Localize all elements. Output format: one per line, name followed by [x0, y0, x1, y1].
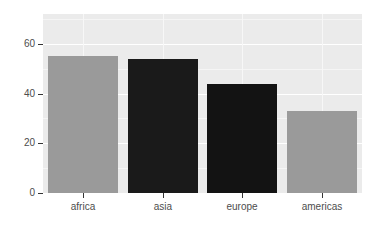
- y-tick-60: 60: [24, 37, 43, 51]
- x-tick-label: europe: [202, 201, 282, 212]
- y-tick-label: 60: [24, 37, 35, 51]
- bar-europe[interactable]: [207, 84, 277, 193]
- x-tick-mark: [83, 193, 84, 198]
- x-tick-africa: africa: [43, 193, 123, 212]
- plot-panel: [43, 14, 362, 193]
- gridline-minor-70: [43, 19, 362, 20]
- bar-americas[interactable]: [287, 111, 357, 193]
- y-tick-label: 40: [24, 87, 35, 101]
- gridline-major-60: [43, 44, 362, 45]
- y-tick-label: 0: [29, 186, 35, 200]
- y-tick-20: 20: [24, 136, 43, 150]
- y-axis: 0204060: [0, 14, 43, 193]
- bar-africa[interactable]: [48, 56, 118, 193]
- bar-asia[interactable]: [128, 59, 198, 193]
- x-tick-americas: americas: [282, 193, 362, 212]
- x-axis: africaasiaeuropeamericas: [43, 193, 362, 223]
- x-tick-mark: [163, 193, 164, 198]
- y-tick-mark: [38, 44, 43, 45]
- x-tick-mark: [322, 193, 323, 198]
- bar-chart: 0204060 africaasiaeuropeamericas: [0, 0, 384, 230]
- y-tick-40: 40: [24, 87, 43, 101]
- x-tick-asia: asia: [123, 193, 203, 212]
- y-tick-label: 20: [24, 136, 35, 150]
- x-tick-label: africa: [43, 201, 123, 212]
- y-tick-mark: [38, 94, 43, 95]
- y-tick-mark: [38, 143, 43, 144]
- x-tick-mark: [242, 193, 243, 198]
- x-tick-europe: europe: [202, 193, 282, 212]
- x-tick-label: americas: [282, 201, 362, 212]
- y-tick-0: 0: [29, 186, 43, 200]
- x-tick-label: asia: [123, 201, 203, 212]
